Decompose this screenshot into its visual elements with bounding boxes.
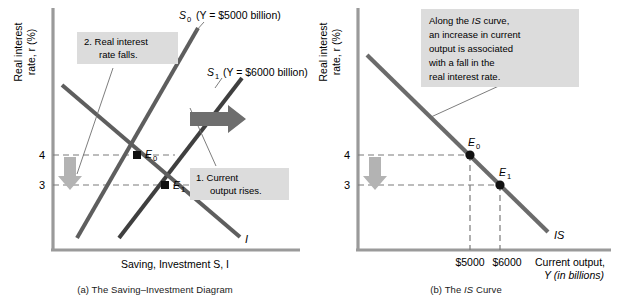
x-axis-label-b-line1: Current output, xyxy=(535,256,605,268)
curve-label-investment: I xyxy=(245,233,248,245)
panel-b-svg: Real interest rate, r (%) 4 3 xyxy=(311,0,621,305)
curve-label-s1-name: S xyxy=(207,66,214,78)
point-e0-b xyxy=(465,150,474,159)
point-label-e0-a-name: E xyxy=(145,148,153,160)
y-tick-4-b: 4 xyxy=(344,149,350,161)
curve-label-s1-sub: 1 xyxy=(215,72,219,81)
point-e1-a xyxy=(161,181,169,189)
panel-b-caption-pre: (b) The xyxy=(430,284,464,295)
y-tick-3-b: 3 xyxy=(344,179,350,191)
panel-saving-investment: Real interest rate, r (%) 4 3 xyxy=(0,0,310,305)
panel-b-caption: (b) The IS Curve xyxy=(311,284,621,295)
curve-label-s0-sub: 0 xyxy=(187,15,191,24)
x-tick-5000-b: $5000 xyxy=(455,256,484,268)
y-axis-label-b-line1: Real interest xyxy=(317,22,329,81)
callout-is-explanation: Along the IS curve, an increase in curre… xyxy=(421,9,579,87)
callout-is-line5: real interest rate. xyxy=(429,71,500,82)
callout-output-rises-line2: output rises. xyxy=(210,185,262,196)
point-label-e1-a-sub: 1 xyxy=(181,185,185,194)
point-e1-b xyxy=(495,180,504,189)
curve-label-is: IS xyxy=(554,229,565,241)
callout-is-line1-b: curve, xyxy=(481,15,510,26)
callout-is-line1: Along the IS curve, xyxy=(429,15,509,26)
leader-line-s0 xyxy=(196,22,204,31)
callout-rate-falls-line2: rate falls. xyxy=(99,49,138,60)
x-tick-6000-b: $6000 xyxy=(492,256,521,268)
point-label-e0-b-sub: 0 xyxy=(476,142,480,151)
point-label-e1-b-name: E xyxy=(499,166,507,178)
point-label-e1-b: E 1 xyxy=(499,166,511,181)
panel-a-caption: (a) The Saving–Investment Diagram xyxy=(0,284,310,295)
callout-is-line2: an increase in current xyxy=(429,29,521,40)
panel-b-caption-post: Curve xyxy=(473,284,502,295)
curve-label-s0: S 0 (Y = $5000 billion) xyxy=(179,9,281,24)
leader-line-rate-falls xyxy=(77,68,113,174)
callout-is-line1-a: Along the xyxy=(429,15,472,26)
callout-output-rises-line1: 1. Current xyxy=(196,172,239,183)
curve-label-s1-paren: (Y = $6000 billion) xyxy=(223,66,308,78)
y-axis-label-a-line2: rate, r (%) xyxy=(25,29,37,76)
x-axis-label-a: Saving, Investment S, I xyxy=(121,258,229,270)
callout-rate-falls: 2. Real interest rate falls. xyxy=(77,32,178,64)
point-label-e1-a: E 1 xyxy=(173,179,185,194)
y-tick-4-a: 4 xyxy=(39,149,45,161)
y-tick-3-a: 3 xyxy=(39,179,45,191)
panel-is-curve: Real interest rate, r (%) 4 3 xyxy=(311,0,621,305)
curve-label-s0-paren: (Y = $5000 billion) xyxy=(196,9,281,21)
callout-output-rises: 1. Current output rises. xyxy=(190,168,289,200)
y-axis-label-a-line1: Real interest xyxy=(12,22,24,81)
point-label-e1-a-name: E xyxy=(173,179,181,191)
curve-label-s0-name: S xyxy=(179,9,186,21)
callout-is-line4: with a fall in the xyxy=(428,57,494,68)
point-label-e0-b: E 0 xyxy=(468,136,480,151)
panel-b-caption-italic: IS xyxy=(464,284,473,295)
point-label-e0-b-name: E xyxy=(468,136,476,148)
y-axis-label-b-line2: rate, r (%) xyxy=(330,29,342,76)
curve-label-s1: S 1 (Y = $6000 billion) xyxy=(207,66,308,81)
x-axis-label-b-line2: Y (in billions) xyxy=(544,269,604,281)
point-label-e0-a-sub: 0 xyxy=(153,154,157,163)
panel-a-caption-text: (a) The Saving–Investment Diagram xyxy=(77,284,233,295)
point-label-e1-b-sub: 1 xyxy=(507,172,511,181)
figure-root: Real interest rate, r (%) 4 3 xyxy=(0,0,621,305)
leader-line-is-explanation xyxy=(431,85,501,117)
callout-rate-falls-line1: 2. Real interest xyxy=(84,36,148,47)
callout-is-line3: output is associated xyxy=(429,43,513,54)
point-e0-a xyxy=(133,151,141,159)
panel-a-svg: Real interest rate, r (%) 4 3 xyxy=(0,0,310,305)
